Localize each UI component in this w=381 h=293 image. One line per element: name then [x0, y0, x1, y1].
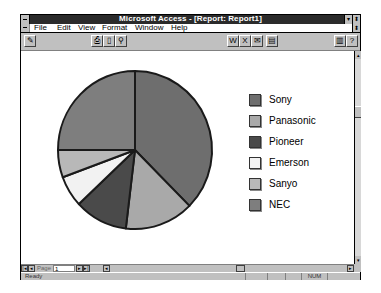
- minimize-button[interactable]: ▾: [344, 15, 352, 24]
- title-bar[interactable]: Microsoft Access - [Report: Report1] ▾ ⬍: [21, 15, 360, 24]
- legend-label: Sanyo: [269, 177, 297, 190]
- scroll-down-arrow-icon[interactable]: ▾: [355, 256, 361, 264]
- horizontal-scroll-thumb[interactable]: [236, 265, 245, 272]
- status-cell: [245, 273, 267, 280]
- menu-bar: File Edit View Format Window Help ⬍: [21, 24, 360, 33]
- legend-item: Sanyo: [249, 178, 329, 190]
- document-restore-button[interactable]: ⬍: [352, 24, 360, 32]
- new-object-button[interactable]: ▥: [334, 35, 346, 47]
- num-lock-indicator: NUM: [301, 273, 327, 280]
- legend-swatch-emerson: [249, 157, 261, 169]
- legend-item: Panasonic: [249, 115, 329, 127]
- report-preview-area: Sony Panasonic Pioneer Emerson Sanyo NEC: [21, 51, 354, 264]
- legend-label: Emerson: [269, 156, 309, 169]
- mail-it-button[interactable]: ✉: [251, 35, 263, 47]
- menu-file[interactable]: File: [34, 23, 47, 33]
- scrollbar-corner: [354, 264, 361, 272]
- legend-item: NEC: [249, 199, 329, 211]
- next-page-button[interactable]: ▸: [76, 265, 83, 272]
- vertical-scroll-thumb[interactable]: [355, 106, 361, 118]
- analyze-excel-button[interactable]: X: [239, 35, 251, 47]
- menu-edit[interactable]: Edit: [57, 23, 71, 33]
- scroll-left-arrow-icon[interactable]: ◂: [103, 265, 110, 272]
- legend-item: Emerson: [249, 157, 329, 169]
- maximize-button[interactable]: ⬍: [352, 15, 360, 24]
- status-bar: Ready NUM: [21, 272, 360, 280]
- legend-label: Pioneer: [269, 135, 303, 148]
- publish-word-button[interactable]: W: [227, 35, 239, 47]
- legend-swatch-sony: [249, 94, 261, 106]
- menu-help[interactable]: Help: [171, 23, 187, 33]
- last-page-button[interactable]: ▸|: [83, 265, 90, 272]
- pie-slice-nec: [58, 71, 135, 150]
- toolbar: ✎ ⎙ ▯ ⚲ W X ✉ ▤ ▥ ?: [21, 33, 360, 51]
- print-button[interactable]: ⎙: [91, 35, 103, 47]
- design-view-button[interactable]: ✎: [24, 35, 36, 47]
- document-system-menu-icon[interactable]: [21, 24, 30, 32]
- scroll-up-arrow-icon[interactable]: ▴: [355, 51, 361, 59]
- database-window-button[interactable]: ▤: [266, 35, 278, 47]
- legend-label: NEC: [269, 198, 290, 211]
- previous-page-button[interactable]: ◂: [28, 265, 35, 272]
- status-text: Ready: [25, 272, 42, 280]
- legend-swatch-panasonic: [249, 115, 261, 127]
- status-cell: [285, 273, 301, 280]
- status-cell: [327, 273, 361, 280]
- record-navigation-bar: |◂ ◂ Page 1 ▸ ▸| ◂ ▸: [21, 264, 354, 272]
- legend-item: Pioneer: [249, 136, 329, 148]
- help-button[interactable]: ?: [346, 35, 358, 47]
- legend-swatch-pioneer: [249, 136, 261, 148]
- legend-label: Sony: [269, 93, 292, 106]
- legend-item: Sony: [249, 94, 329, 106]
- zoom-button[interactable]: ⚲: [115, 35, 127, 47]
- menu-view[interactable]: View: [78, 23, 95, 33]
- page-number-input[interactable]: 1: [53, 265, 75, 272]
- access-window: Microsoft Access - [Report: Report1] ▾ ⬍…: [20, 14, 361, 280]
- page-label: Page: [37, 264, 51, 272]
- menu-window[interactable]: Window: [135, 23, 163, 33]
- vertical-scrollbar[interactable]: ▴ ▾: [354, 51, 361, 264]
- status-cell: [267, 273, 285, 280]
- first-page-button[interactable]: |◂: [21, 265, 28, 272]
- scroll-right-arrow-icon[interactable]: ▸: [347, 265, 354, 272]
- legend-swatch-sanyo: [249, 178, 261, 190]
- legend-swatch-nec: [249, 199, 261, 211]
- window-title: Microsoft Access - [Report: Report1]: [21, 14, 360, 24]
- legend-label: Panasonic: [269, 114, 316, 127]
- menu-format[interactable]: Format: [102, 23, 127, 33]
- page-setup-button[interactable]: ▯: [103, 35, 115, 47]
